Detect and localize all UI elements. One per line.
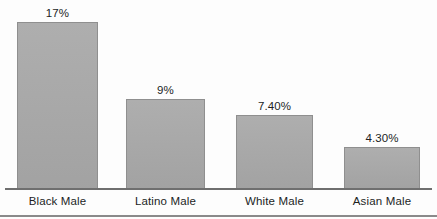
bar-group-black-male: 17% xyxy=(17,22,98,189)
bar-value-latino-male: 9% xyxy=(126,84,205,96)
bar-chart: 17% 9% 7.40% 4.30% Black Male Latino Mal… xyxy=(0,0,437,219)
bottom-rule xyxy=(0,215,437,217)
category-label-latino-male: Latino Male xyxy=(126,195,205,207)
bar-value-black-male: 17% xyxy=(17,7,98,19)
plot-area: 17% 9% 7.40% 4.30% xyxy=(0,0,437,189)
bar-rect-asian-male xyxy=(344,147,420,189)
bar-rect-latino-male xyxy=(126,99,205,189)
category-label-asian-male: Asian Male xyxy=(344,195,420,207)
bar-value-asian-male: 4.30% xyxy=(344,132,420,144)
bar-group-latino-male: 9% xyxy=(126,99,205,189)
category-axis: Black Male Latino Male White Male Asian … xyxy=(0,191,437,215)
bar-group-white-male: 7.40% xyxy=(236,115,313,189)
bar-value-white-male: 7.40% xyxy=(236,100,313,112)
bar-rect-black-male xyxy=(17,22,98,189)
bar-group-asian-male: 4.30% xyxy=(344,147,420,189)
category-label-black-male: Black Male xyxy=(17,195,98,207)
category-label-white-male: White Male xyxy=(236,195,313,207)
x-axis-line xyxy=(5,188,432,190)
bar-rect-white-male xyxy=(236,115,313,189)
